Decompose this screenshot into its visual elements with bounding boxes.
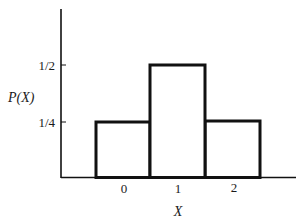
- bar-x1: [150, 65, 205, 178]
- bar-x0: [96, 122, 150, 178]
- y-tick-label-quarter: 1/4: [38, 115, 55, 130]
- x-tick-label-0: 0: [121, 181, 128, 196]
- bar-x2: [205, 121, 260, 178]
- y-tick-label-half: 1/2: [38, 58, 55, 73]
- probability-histogram: 1/2 1/4 P(X) 0 1 2 X: [0, 0, 300, 222]
- x-tick-label-2: 2: [231, 180, 238, 195]
- y-axis-label: P(X): [7, 90, 35, 106]
- x-tick-label-1: 1: [175, 181, 182, 196]
- x-axis-label: X: [173, 204, 183, 219]
